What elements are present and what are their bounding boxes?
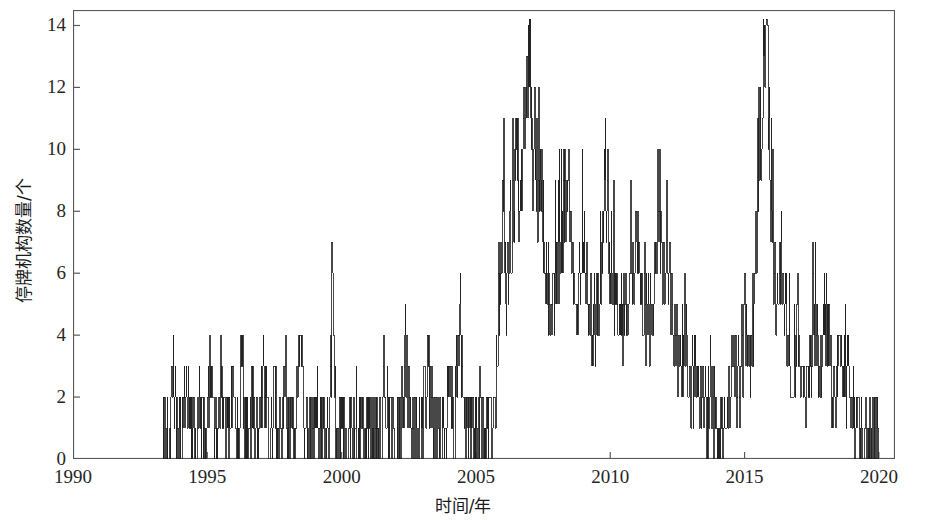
x-tick-label: 1995 <box>167 466 247 488</box>
axis-ticks <box>73 25 879 459</box>
x-tick-label: 2000 <box>302 466 382 488</box>
y-tick-label: 14 <box>26 14 66 36</box>
x-tick-label: 2005 <box>436 466 516 488</box>
chart-svg <box>73 10 895 459</box>
y-tick-label: 4 <box>26 324 66 346</box>
y-tick-label: 2 <box>26 386 66 408</box>
plot-area <box>73 10 895 459</box>
y-axis-tick-labels: 02468101214 <box>18 10 66 459</box>
y-tick-label: 10 <box>26 138 66 160</box>
x-tick-label: 2010 <box>570 466 650 488</box>
y-tick-label: 8 <box>26 200 66 222</box>
x-axis-label: 时间/年 <box>0 492 926 517</box>
y-tick-label: 12 <box>26 76 66 98</box>
x-axis-tick-labels: 1990199520002005201020152020 <box>73 466 895 494</box>
x-tick-label: 2020 <box>839 466 919 488</box>
y-tick-label: 6 <box>26 262 66 284</box>
x-tick-label: 2015 <box>705 466 785 488</box>
data-series-line <box>73 19 879 459</box>
x-tick-label: 1990 <box>33 466 113 488</box>
chart-figure: 停牌机构数量/个 时间/年 02468101214 19901995200020… <box>0 0 926 520</box>
